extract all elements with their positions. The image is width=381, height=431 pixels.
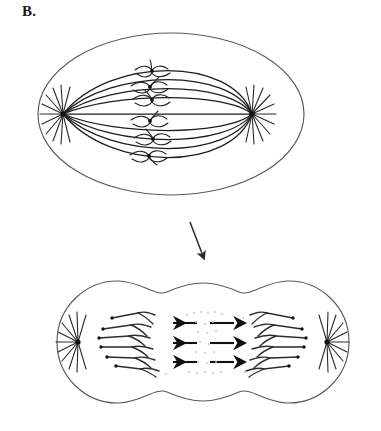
metaphase-cell	[38, 33, 304, 195]
centrosome	[60, 111, 65, 116]
anaphase-cytokinesis-cell	[56, 281, 349, 403]
centrosome	[75, 339, 80, 344]
cell-division-diagram	[0, 0, 381, 431]
centrosome	[324, 339, 329, 344]
progression-arrow	[190, 222, 203, 256]
page-title: B.	[22, 3, 36, 20]
figure-container: B.	[0, 0, 381, 431]
centrosome	[249, 111, 255, 117]
cleavage-furrow	[57, 281, 349, 403]
